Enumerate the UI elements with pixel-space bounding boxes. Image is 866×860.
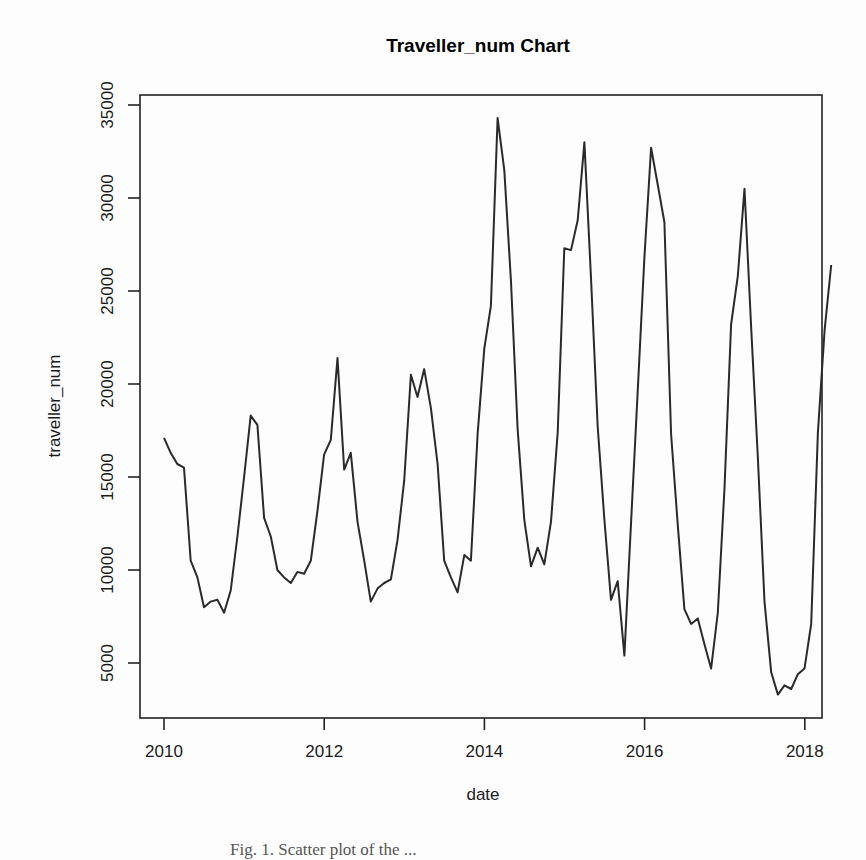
traveller-num-line [164, 118, 831, 695]
y-tick-label: 35000 [98, 81, 117, 128]
y-tick-label: 15000 [98, 453, 117, 500]
x-tick-label: 2012 [305, 742, 343, 761]
plot-frame [140, 95, 822, 718]
y-tick-label: 20000 [98, 360, 117, 407]
y-tick-label: 5000 [98, 644, 117, 682]
y-axis-title: traveller_num [45, 355, 64, 458]
x-axis-title: date [466, 785, 499, 804]
x-tick-label: 2010 [145, 742, 183, 761]
y-tick-label: 30000 [98, 174, 117, 221]
y-tick-label: 25000 [98, 267, 117, 314]
figure-caption: Fig. 1. Scatter plot of the ... [230, 840, 417, 860]
x-axis: 20102012201420162018 [145, 718, 824, 761]
x-tick-label: 2016 [626, 742, 664, 761]
y-tick-label: 10000 [98, 546, 117, 593]
x-tick-label: 2014 [465, 742, 503, 761]
chart-title: Traveller_num Chart [386, 35, 570, 56]
x-tick-label: 2018 [786, 742, 824, 761]
y-axis: 5000100001500020000250003000035000 [98, 81, 140, 682]
